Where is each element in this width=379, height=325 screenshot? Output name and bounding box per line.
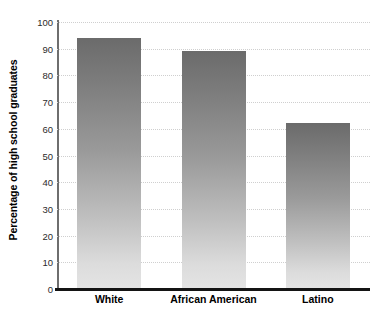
category-label: African American bbox=[161, 293, 265, 305]
bar bbox=[77, 38, 141, 289]
y-axis-tick-label: 80 bbox=[29, 70, 53, 81]
bar bbox=[182, 51, 246, 289]
y-axis-tick-label: 60 bbox=[29, 123, 53, 134]
y-axis-tick-labels: 0102030405060708090100 bbox=[27, 22, 53, 289]
y-axis-tick-label: 30 bbox=[29, 203, 53, 214]
y-axis-title-label: Percentage of high school graduates bbox=[7, 60, 19, 241]
y-axis-tick-label: 70 bbox=[29, 97, 53, 108]
x-axis-category-labels: WhiteAfrican AmericanLatino bbox=[57, 293, 370, 313]
y-axis-tick-label: 40 bbox=[29, 177, 53, 188]
y-axis-tick-label: 50 bbox=[29, 150, 53, 161]
gridline bbox=[57, 22, 370, 24]
x-axis-baseline bbox=[55, 288, 370, 291]
y-axis-tick-label: 100 bbox=[29, 17, 53, 28]
y-axis-tick-label: 0 bbox=[29, 284, 53, 295]
y-axis-title: Percentage of high school graduates bbox=[0, 0, 26, 300]
bar bbox=[286, 123, 350, 289]
bar-chart: Percentage of high school graduates 0102… bbox=[0, 0, 379, 325]
y-axis-tick-label: 90 bbox=[29, 43, 53, 54]
y-axis-tick-label: 10 bbox=[29, 257, 53, 268]
plot-area bbox=[57, 22, 370, 289]
y-axis-tick-label: 20 bbox=[29, 230, 53, 241]
category-label: White bbox=[57, 293, 161, 305]
category-label: Latino bbox=[266, 293, 370, 305]
